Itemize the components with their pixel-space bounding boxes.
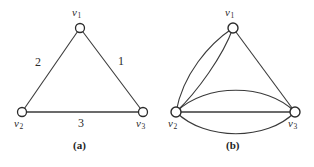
edge-weight-v2-v3: 3	[78, 117, 84, 129]
edge-v1-v2-arc-outer	[176, 28, 233, 112]
vertex-v1	[228, 23, 238, 33]
panel-a-weighted-graph: v1 v2 v3 2 1 3 (a)	[0, 0, 157, 167]
graph-figure: v1 v2 v3 2 1 3 (a) v1 v2 v3 (b)	[0, 0, 314, 167]
vertex-v3	[290, 107, 300, 117]
vertex-label-v1: v1	[225, 7, 234, 18]
vertex-label-v2: v2	[168, 118, 177, 129]
edge-weight-v1-v2: 2	[35, 56, 41, 68]
vertex-v2	[171, 107, 181, 117]
vertex-label-v2: v2	[14, 118, 23, 129]
caption-a: (a)	[73, 140, 86, 151]
edge-v1-v3	[233, 28, 295, 112]
vertex-label-v1: v1	[72, 7, 81, 18]
vertex-v1	[76, 24, 85, 33]
caption-b: (b)	[226, 140, 239, 151]
edge-weight-v1-v3: 1	[118, 55, 124, 67]
vertex-v3	[139, 108, 148, 117]
edge-v1-v2	[22, 28, 80, 112]
vertex-v2	[18, 108, 27, 117]
vertex-label-v3: v3	[136, 118, 145, 129]
edge-v1-v3	[80, 28, 143, 112]
panel-b-multigraph: v1 v2 v3 (b)	[157, 0, 314, 167]
vertex-label-v3: v3	[288, 118, 297, 129]
edge-v2-v3-arc-bottom	[176, 112, 295, 134]
edge-v1-v2-arc-inner	[176, 28, 233, 112]
